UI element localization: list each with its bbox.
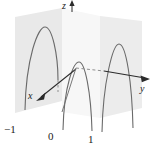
y-axis-label: y <box>139 83 145 94</box>
plane-y-minus-1 <box>15 8 62 113</box>
diagram-canvas: z x y −1 0 1 <box>0 0 154 144</box>
figure-3d-parabolic-cylinder: z x y −1 0 1 <box>0 0 154 144</box>
arrow-up-icon <box>69 0 74 6</box>
tick-label-1: 1 <box>88 133 94 144</box>
tick-label-0: 0 <box>48 130 54 142</box>
x-axis-label: x <box>27 90 33 101</box>
plane-y-1 <box>100 16 142 118</box>
tick-label-minus-1: −1 <box>4 123 16 135</box>
z-axis-label: z <box>61 0 66 11</box>
arrow-right-icon <box>141 76 151 83</box>
